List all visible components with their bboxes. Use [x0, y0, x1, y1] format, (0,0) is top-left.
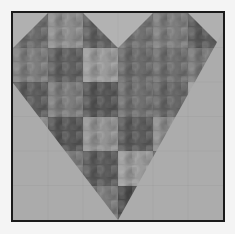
bottom-left-background-triangle: [13, 83, 118, 220]
quilt-block-frame: [11, 11, 225, 222]
bottom-right-background-triangle: [118, 32, 223, 220]
top-left-corner-triangle: [13, 13, 48, 48]
heart-shape-overlay: [13, 13, 223, 220]
